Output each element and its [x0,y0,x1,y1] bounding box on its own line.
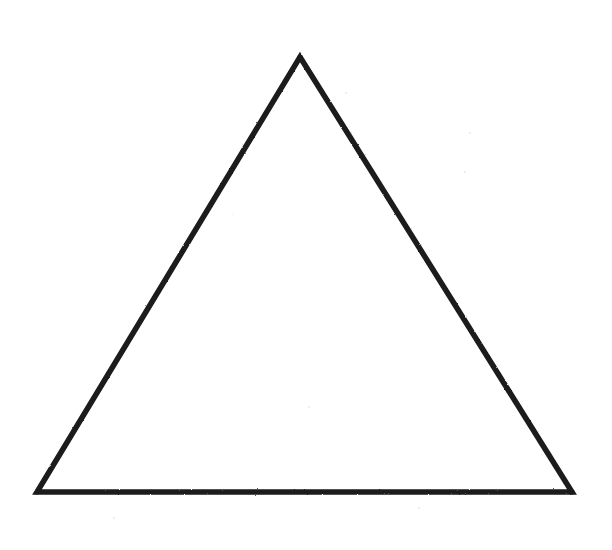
vertex-bottom-right [569,489,574,494]
triangle-drawing-svg [0,0,612,550]
figure-canvas [0,0,612,550]
vertex-apex [297,54,302,59]
vertex-bottom-left [34,489,39,494]
canvas-background [0,0,612,550]
